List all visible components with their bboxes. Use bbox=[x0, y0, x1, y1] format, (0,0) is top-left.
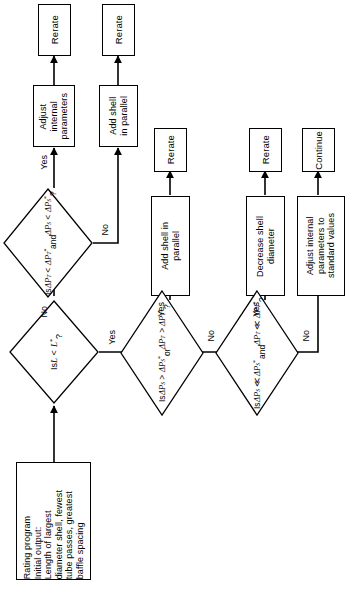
node-decision-length[interactable]: Is L < L* ? bbox=[9, 300, 99, 404]
node-rerate-1-label: Rerate bbox=[49, 15, 60, 44]
node-decision-dp-less[interactable]: Is ΔPT < ΔPT* and ΔPS < ΔPS* ? bbox=[3, 188, 93, 298]
node-decrease-shell-diameter-label: Decrease shell diameter bbox=[255, 216, 276, 277]
edge-label-length-no: No bbox=[40, 306, 49, 318]
node-adjust-standard-label: Adjust internal parameters to standard v… bbox=[305, 213, 337, 278]
node-start[interactable]: Rating program Initial output: Length of… bbox=[16, 462, 91, 580]
edge-label-muchless-yes: Yes bbox=[252, 302, 261, 317]
edge-label-dpless-no: No bbox=[101, 224, 110, 236]
flowchart-canvas: Rerate Rerate Rerate Rerate Continue Adj… bbox=[0, 0, 357, 589]
node-rerate-3-label: Rerate bbox=[165, 135, 176, 164]
node-add-shell-parallel-top-label: Add shell in parallel bbox=[108, 96, 129, 136]
node-rerate-2[interactable]: Rerate bbox=[102, 4, 135, 56]
node-decision-dp-less-label: Is ΔPT < ΔPT* and ΔPS < ΔPS* ? bbox=[3, 188, 93, 298]
edge-label-length-yes: Yes bbox=[108, 330, 117, 345]
node-rerate-4-label: Rerate bbox=[260, 135, 271, 164]
edge-label-dpover-yes: Yes bbox=[157, 302, 166, 317]
node-decrease-shell-diameter[interactable]: Decrease shell diameter bbox=[246, 196, 285, 296]
node-rerate-3[interactable]: Rerate bbox=[154, 128, 187, 172]
edge-label-dpover-no: No bbox=[207, 330, 216, 342]
node-add-shell-parallel-mid[interactable]: Add shell in parallel bbox=[151, 196, 190, 296]
edge-label-dpless-yes: Yes bbox=[40, 155, 49, 170]
node-decision-length-label: Is L < L* ? bbox=[9, 300, 99, 404]
node-rerate-2-label: Rerate bbox=[113, 15, 124, 44]
node-rerate-4[interactable]: Rerate bbox=[249, 128, 282, 172]
node-adjust-standard[interactable]: Adjust internal parameters to standard v… bbox=[297, 196, 345, 296]
node-continue[interactable]: Continue bbox=[302, 128, 335, 172]
edge-label-muchless-no: No bbox=[302, 330, 311, 342]
node-adjust-internal[interactable]: Adjust internal parameters bbox=[33, 85, 75, 147]
node-add-shell-parallel-mid-label: Add shell in parallel bbox=[160, 222, 181, 270]
node-start-label: Rating program Initial output: Length of… bbox=[22, 490, 86, 579]
node-adjust-internal-label: Adjust internal parameters bbox=[38, 93, 70, 140]
node-rerate-1[interactable]: Rerate bbox=[38, 4, 71, 56]
node-add-shell-parallel-top[interactable]: Add shell in parallel bbox=[99, 85, 138, 147]
node-continue-label: Continue bbox=[313, 131, 324, 170]
